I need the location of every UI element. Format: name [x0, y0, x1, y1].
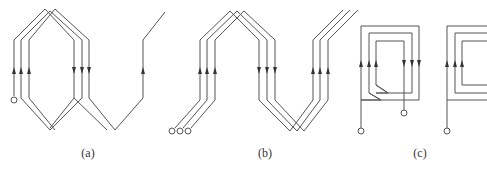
panel-b-wave-winding — [169, 10, 358, 134]
terminal-icon — [185, 128, 191, 134]
arrow-up-icon — [326, 67, 330, 74]
panel-label-a: (a) — [81, 146, 94, 161]
terminal-icon — [177, 128, 183, 134]
arrow-up-icon — [453, 60, 457, 67]
arrow-up-icon — [374, 60, 378, 67]
arrow-down-icon — [273, 67, 277, 74]
panel-c-coil-group-2 — [444, 26, 487, 134]
terminal-icon — [358, 128, 364, 134]
arrow-up-icon — [318, 67, 322, 74]
arrow-up-icon — [141, 67, 145, 74]
arrow-up-icon — [19, 67, 23, 74]
winding-diagram — [0, 0, 487, 170]
arrow-down-icon — [72, 67, 76, 74]
arrow-up-icon — [359, 60, 363, 67]
terminal-icon — [169, 128, 175, 134]
panel-label-b: (b) — [258, 146, 272, 161]
arrow-up-icon — [205, 67, 209, 74]
arrow-up-icon — [213, 67, 217, 74]
terminal-icon — [11, 97, 17, 103]
arrow-down-icon — [265, 67, 269, 74]
terminal-icon — [401, 110, 407, 116]
arrow-down-icon — [257, 67, 261, 74]
arrow-down-icon — [402, 60, 406, 67]
arrow-down-icon — [417, 60, 421, 67]
arrow-up-icon — [311, 67, 315, 74]
panel-a-coils — [11, 9, 165, 130]
arrow-up-icon — [460, 60, 464, 67]
arrow-down-icon — [410, 60, 414, 67]
arrow-up-icon — [12, 67, 16, 74]
arrow-up-icon — [198, 67, 202, 74]
arrow-down-icon — [87, 67, 91, 74]
panel-label-c: (c) — [413, 146, 426, 161]
arrow-up-icon — [445, 60, 449, 67]
terminal-icon — [444, 128, 450, 134]
arrow-up-icon — [27, 67, 31, 74]
panel-c-coil-group-1 — [358, 26, 421, 134]
arrow-up-icon — [367, 60, 371, 67]
arrow-down-icon — [80, 67, 84, 74]
